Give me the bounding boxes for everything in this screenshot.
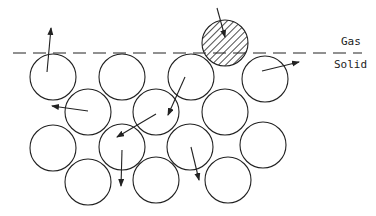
atoms-group xyxy=(30,20,288,205)
solid-atom xyxy=(99,54,145,100)
solid-atom xyxy=(240,122,286,168)
solid-atom xyxy=(65,159,111,205)
solid-atom xyxy=(133,157,179,203)
solid-atom xyxy=(30,125,76,171)
adsorbed-atom-hatched xyxy=(202,20,248,66)
gas-solid-interface-diagram xyxy=(0,0,376,216)
solid-atom xyxy=(133,89,179,135)
gas-label: Gas xyxy=(341,35,361,48)
solid-label: Solid xyxy=(334,58,367,71)
solid-atom xyxy=(168,54,214,100)
solid-atom xyxy=(242,56,288,102)
solid-atom xyxy=(202,89,248,135)
solid-atom xyxy=(167,124,213,170)
solid-atom xyxy=(65,89,111,135)
solid-atom xyxy=(30,54,76,100)
solid-atom xyxy=(205,157,251,203)
